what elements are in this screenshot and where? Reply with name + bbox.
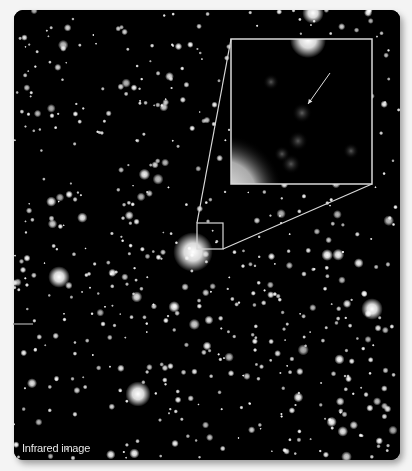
star-field <box>14 10 400 460</box>
image-caption: Infrared image <box>22 442 90 454</box>
infrared-image: Infrared image <box>14 10 400 460</box>
